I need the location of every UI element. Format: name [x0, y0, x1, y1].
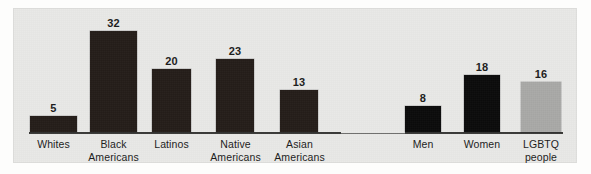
category-label-lgbtq-people: LGBTQ people — [505, 138, 577, 163]
bar-rect-lgbtq-people — [521, 82, 561, 132]
bar-value-black-americans: 32 — [107, 17, 120, 29]
bar-men[interactable]: 8 — [405, 106, 441, 132]
bar-black-americans[interactable]: 32 — [90, 31, 137, 132]
bar-rect-black-americans — [90, 31, 137, 132]
bar-lgbtq-people[interactable]: 16 — [521, 82, 561, 132]
bar-value-native-americans: 23 — [229, 45, 242, 57]
bar-value-whites: 5 — [50, 102, 56, 114]
bar-latinos[interactable]: 20 — [152, 69, 191, 132]
bar-chart-plot: 5 Whites 32 Black Americans 20 Latinos 2… — [13, 8, 577, 163]
bar-rect-men — [405, 106, 441, 132]
bar-rect-women — [464, 75, 500, 132]
x-axis-line-gap — [341, 133, 405, 134]
bar-value-lgbtq-people: 16 — [535, 68, 548, 80]
x-axis-line-left — [29, 132, 341, 134]
bar-asian-americans[interactable]: 13 — [280, 90, 318, 132]
bar-value-latinos: 20 — [165, 55, 178, 67]
bar-rect-latinos — [152, 69, 191, 132]
bar-rect-native-americans — [216, 59, 254, 132]
bar-rect-whites — [30, 116, 77, 132]
chart-figure: 5 Whites 32 Black Americans 20 Latinos 2… — [13, 8, 577, 163]
bar-rect-asian-americans — [280, 90, 318, 132]
bar-native-americans[interactable]: 23 — [216, 59, 254, 132]
bar-value-women: 18 — [476, 61, 489, 73]
bar-value-men: 8 — [420, 92, 426, 104]
category-label-men: Men — [390, 138, 456, 151]
category-label-asian-americans: Asian Americans — [261, 138, 338, 163]
x-axis-line-right — [405, 132, 563, 134]
bar-women[interactable]: 18 — [464, 75, 500, 132]
bar-value-asian-americans: 13 — [293, 76, 306, 88]
bar-whites[interactable]: 5 — [30, 116, 77, 132]
